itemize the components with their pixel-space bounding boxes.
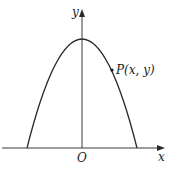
origin-label: O bbox=[77, 151, 87, 165]
point-p-marker bbox=[110, 68, 113, 71]
y-axis-label: y bbox=[71, 5, 79, 19]
point-p-label: P(x, y) bbox=[115, 63, 155, 77]
parabola-diagram: y x O P(x, y) bbox=[0, 0, 178, 174]
y-axis-arrow-icon bbox=[79, 9, 85, 17]
x-axis-label: x bbox=[158, 150, 165, 164]
y-axis bbox=[79, 9, 85, 148]
